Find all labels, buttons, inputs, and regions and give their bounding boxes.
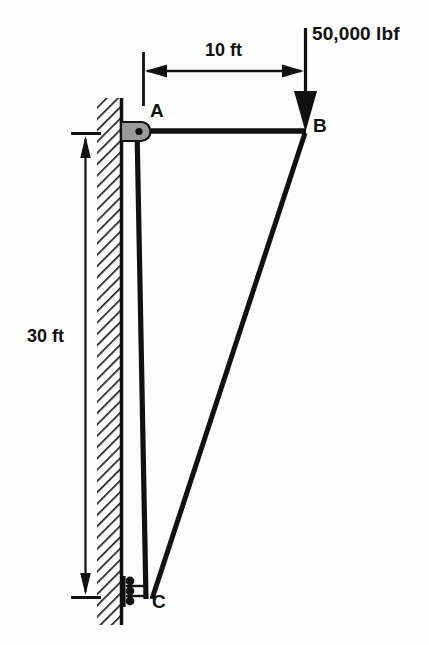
node-label-B: B <box>313 116 327 135</box>
dimension-10ft-group <box>144 52 305 106</box>
dimension-30ft-group <box>71 134 101 598</box>
pin-center-A <box>135 128 142 135</box>
wall-group <box>97 98 122 625</box>
load-magnitude-label: 50,000 lbf <box>312 24 400 43</box>
roller-circle-bottom <box>126 597 135 606</box>
truss-diagram: 50,000 lbf 10 ft 30 ft A B C <box>0 0 429 645</box>
dimension-label-10ft: 10 ft <box>205 41 242 59</box>
node-label-C: C <box>152 592 166 611</box>
roller-circle-middle <box>126 587 135 596</box>
roller-circle-top <box>126 577 135 586</box>
wall-hatch-band <box>97 98 121 625</box>
member-CB <box>152 133 305 599</box>
dimension-arrowhead-left <box>145 65 167 78</box>
dimension-label-30ft: 30 ft <box>27 327 64 345</box>
truss-members-group <box>134 128 306 599</box>
pin-support-A <box>121 122 151 141</box>
member-AC <box>137 128 146 599</box>
node-label-A: A <box>150 101 164 120</box>
diagram-canvas <box>0 0 429 645</box>
dimension-arrowhead-top <box>80 136 91 158</box>
dimension-arrowhead-bottom <box>80 573 91 595</box>
dimension-arrowhead-right <box>282 65 304 78</box>
